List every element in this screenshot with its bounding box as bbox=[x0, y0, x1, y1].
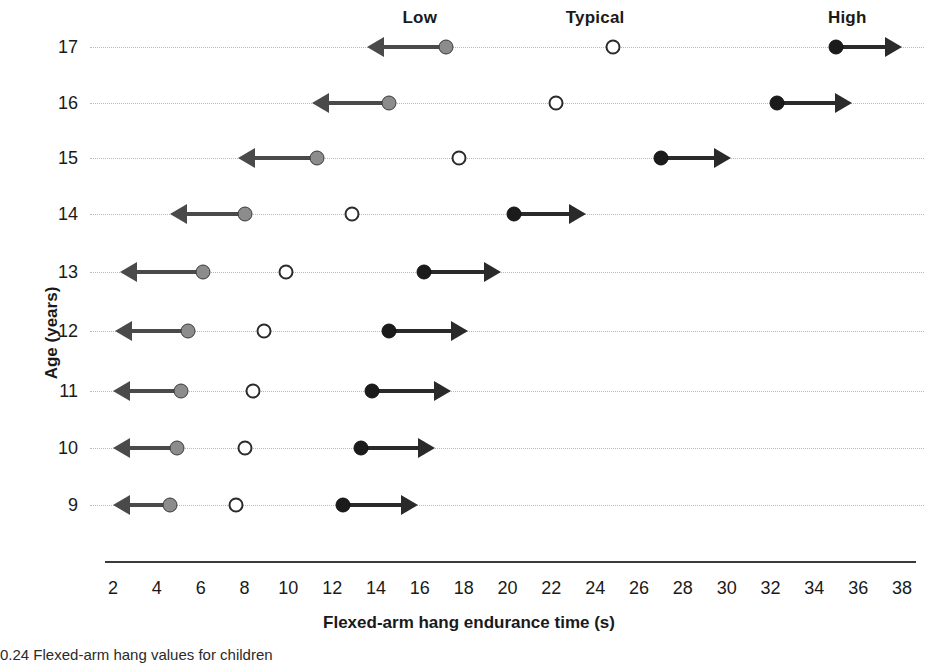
high-arrow-shaft bbox=[424, 270, 487, 274]
chart-row: 12 bbox=[0, 318, 938, 344]
y-tick-label: 14 bbox=[58, 204, 78, 225]
x-tick-label: 2 bbox=[108, 578, 118, 599]
high-arrowhead-icon bbox=[401, 495, 418, 515]
low-arrowhead-icon bbox=[367, 37, 384, 57]
x-tick-label: 22 bbox=[541, 578, 561, 599]
chart-row: 13 bbox=[0, 259, 938, 285]
gridline bbox=[90, 47, 924, 48]
low-arrow-shaft bbox=[134, 270, 203, 274]
high-arrow-shaft bbox=[361, 446, 422, 450]
data-point-low bbox=[169, 441, 184, 456]
y-tick-label: 11 bbox=[59, 381, 78, 402]
data-point-typical bbox=[228, 498, 243, 513]
high-arrowhead-icon bbox=[885, 37, 902, 57]
group-label-low: Low bbox=[403, 8, 438, 28]
data-point-typical bbox=[452, 151, 467, 166]
x-axis-title: Flexed-arm hang endurance time (s) bbox=[0, 613, 938, 633]
high-arrowhead-icon bbox=[484, 262, 501, 282]
x-tick-label: 14 bbox=[366, 578, 386, 599]
gridline bbox=[90, 505, 924, 506]
low-arrow-shaft bbox=[381, 45, 446, 49]
data-point-low bbox=[382, 96, 397, 111]
data-point-typical bbox=[605, 40, 620, 55]
x-tick-label: 24 bbox=[585, 578, 605, 599]
data-point-low bbox=[309, 151, 324, 166]
group-label-high: High bbox=[828, 8, 867, 28]
x-tick-label: 20 bbox=[497, 578, 517, 599]
gridline bbox=[90, 448, 924, 449]
x-tick-label: 10 bbox=[278, 578, 298, 599]
low-arrowhead-icon bbox=[170, 204, 187, 224]
gridline bbox=[90, 331, 924, 332]
chart-row: 10 bbox=[0, 435, 938, 461]
low-arrow-shaft bbox=[129, 329, 187, 333]
data-point-low bbox=[237, 207, 252, 222]
data-point-low bbox=[173, 384, 188, 399]
y-tick-label: 9 bbox=[68, 495, 78, 516]
high-arrowhead-icon bbox=[451, 321, 468, 341]
low-arrowhead-icon bbox=[113, 438, 130, 458]
data-point-high bbox=[382, 324, 397, 339]
x-tick-label: 8 bbox=[239, 578, 249, 599]
y-tick-label: 10 bbox=[58, 438, 78, 459]
chart-row: 15 bbox=[0, 145, 938, 171]
y-tick-label: 13 bbox=[58, 262, 78, 283]
chart-row: 17 bbox=[0, 34, 938, 60]
data-point-low bbox=[180, 324, 195, 339]
data-point-typical bbox=[548, 96, 563, 111]
low-arrowhead-icon bbox=[115, 321, 132, 341]
x-tick-label: 26 bbox=[629, 578, 649, 599]
low-arrowhead-icon bbox=[238, 148, 255, 168]
data-point-low bbox=[439, 40, 454, 55]
x-tick-label: 34 bbox=[804, 578, 824, 599]
chart-figure: Low Typical High Age (years) 17161514131… bbox=[0, 0, 938, 666]
low-arrow-shaft bbox=[252, 156, 317, 160]
low-arrow-shaft bbox=[326, 101, 389, 105]
high-arrow-shaft bbox=[777, 101, 838, 105]
y-tick-label: 17 bbox=[58, 37, 78, 58]
x-tick-label: 16 bbox=[410, 578, 430, 599]
high-arrowhead-icon bbox=[418, 438, 435, 458]
low-arrowhead-icon bbox=[120, 262, 137, 282]
high-arrowhead-icon bbox=[569, 204, 586, 224]
high-arrow-shaft bbox=[389, 329, 454, 333]
x-tick-label: 36 bbox=[848, 578, 868, 599]
data-point-typical bbox=[279, 265, 294, 280]
data-point-low bbox=[195, 265, 210, 280]
high-arrowhead-icon bbox=[714, 148, 731, 168]
data-point-typical bbox=[237, 441, 252, 456]
x-tick-label: 30 bbox=[717, 578, 737, 599]
data-point-high bbox=[364, 384, 379, 399]
data-point-high bbox=[829, 40, 844, 55]
x-tick-label: 32 bbox=[760, 578, 780, 599]
high-arrow-shaft bbox=[661, 156, 717, 160]
high-arrow-shaft bbox=[372, 389, 437, 393]
low-arrow-shaft bbox=[184, 212, 245, 216]
data-point-low bbox=[162, 498, 177, 513]
chart-row: 14 bbox=[0, 201, 938, 227]
data-point-high bbox=[353, 441, 368, 456]
data-point-high bbox=[653, 151, 668, 166]
high-arrow-shaft bbox=[836, 45, 888, 49]
gridline bbox=[90, 272, 924, 273]
y-tick-label: 16 bbox=[58, 93, 78, 114]
chart-row: 9 bbox=[0, 492, 938, 518]
data-point-high bbox=[507, 207, 522, 222]
x-tick-label: 4 bbox=[152, 578, 162, 599]
x-tick-label: 6 bbox=[196, 578, 206, 599]
data-point-high bbox=[770, 96, 785, 111]
x-axis-line bbox=[105, 561, 916, 563]
low-arrowhead-icon bbox=[113, 381, 130, 401]
data-point-typical bbox=[257, 324, 272, 339]
high-arrow-shaft bbox=[514, 212, 572, 216]
chart-row: 11 bbox=[0, 378, 938, 404]
data-point-high bbox=[417, 265, 432, 280]
high-arrowhead-icon bbox=[434, 381, 451, 401]
group-label-typical: Typical bbox=[566, 8, 625, 28]
x-tick-label: 12 bbox=[322, 578, 342, 599]
data-point-typical bbox=[344, 207, 359, 222]
figure-caption: 0.24 Flexed-arm hang values for children bbox=[0, 646, 938, 663]
gridline bbox=[90, 391, 924, 392]
chart-row: 16 bbox=[0, 90, 938, 116]
data-point-high bbox=[336, 498, 351, 513]
